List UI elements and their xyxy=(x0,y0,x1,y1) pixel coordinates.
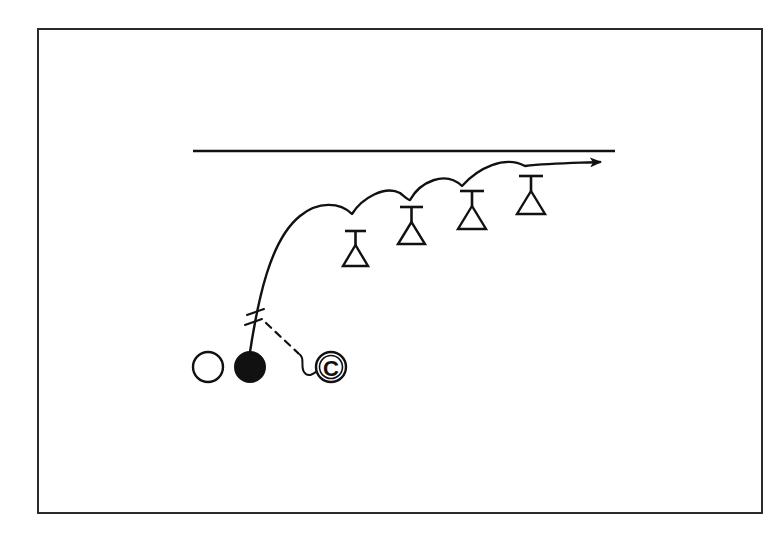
coach-icon: C xyxy=(316,352,346,382)
open-player-icon xyxy=(193,352,223,382)
pass-line-squiggle xyxy=(298,353,318,375)
cone-2 xyxy=(398,207,425,244)
cone-4 xyxy=(517,176,545,214)
coach-label: C xyxy=(323,356,339,381)
run-route-path xyxy=(250,162,600,352)
cone-3 xyxy=(458,191,486,229)
ball-carrier-icon xyxy=(235,352,265,382)
cone-1 xyxy=(343,231,368,266)
diagram-frame xyxy=(38,29,762,513)
pass-line xyxy=(266,323,298,353)
drill-diagram: C xyxy=(0,0,777,536)
